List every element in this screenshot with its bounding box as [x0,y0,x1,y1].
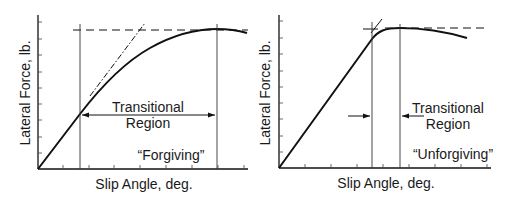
forgiving-chart: Transitional Region “Forgiving” Slip Ang… [17,15,248,192]
x-axis-label: Slip Angle, deg. [337,175,434,191]
linear-tangent-dashdot-line [90,23,145,96]
unforgiving-chart: Transitional Region “Unforgiving” Slip A… [257,15,493,191]
region-label-line2: Region [426,116,470,132]
arrowhead-right-pointer [402,114,409,119]
arrowhead-left-pointer [363,114,370,119]
y-axis-label: Lateral Force, lb. [257,40,273,145]
x-axis-label: Slip Angle, deg. [95,176,192,192]
region-label-line1: Transitional [412,100,484,116]
arrowhead-left [82,113,89,118]
arrowhead-right [208,113,215,118]
characterization-label: “Forgiving” [138,147,205,163]
characterization-label: “Unforgiving” [413,146,493,162]
y-axis-label: Lateral Force, lb. [17,40,33,145]
region-label-line2: Region [126,115,170,131]
region-label-line1: Transitional [112,99,184,115]
diagram-canvas: Transitional Region “Forgiving” Slip Ang… [0,0,510,197]
